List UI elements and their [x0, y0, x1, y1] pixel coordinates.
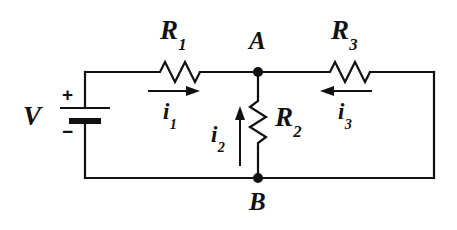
- circuit-diagram-figure: V + − R1 R3 R2 i1 i2 i3 A B: [0, 0, 457, 230]
- current-label-i1-letter: i: [163, 99, 169, 124]
- node-label-a: A: [249, 28, 266, 53]
- current-arrow-i2: [235, 106, 245, 166]
- resistor-label-r3-letter: R: [331, 15, 349, 45]
- resistor-r1-zigzag: [155, 62, 200, 82]
- current-label-i3-subscript: 3: [345, 116, 352, 132]
- current-arrow-i1: [148, 86, 200, 96]
- node-label-b: B: [249, 189, 266, 214]
- current-label-i3: i3: [338, 100, 352, 127]
- node-b-dot: [253, 173, 263, 183]
- resistor-label-r3-subscript: 3: [349, 35, 357, 54]
- resistor-r3-zigzag: [325, 62, 370, 82]
- resistor-label-r1-subscript: 1: [178, 35, 186, 54]
- current-label-i2-subscript: 2: [218, 139, 225, 155]
- current-label-i2-letter: i: [211, 122, 217, 147]
- current-arrow-i3: [320, 86, 372, 96]
- resistor-label-r3: R3: [331, 17, 357, 49]
- current-label-i1-subscript: 1: [170, 116, 177, 132]
- source-label-v: V: [23, 103, 41, 130]
- node-a-dot: [253, 67, 263, 77]
- resistor-r2-zigzag: [250, 96, 266, 149]
- resistor-label-r2: R2: [275, 104, 301, 136]
- circuit-schematic-drawing: [0, 0, 457, 230]
- resistor-label-r2-subscript: 2: [293, 122, 301, 141]
- battery-plus-sign: +: [62, 85, 73, 104]
- resistor-label-r2-letter: R: [275, 102, 293, 132]
- battery-symbol: [60, 108, 110, 121]
- battery-minus-sign: −: [62, 122, 73, 141]
- resistor-label-r1: R1: [160, 17, 186, 49]
- current-label-i1: i1: [163, 100, 177, 127]
- resistor-label-r1-letter: R: [160, 15, 178, 45]
- current-label-i3-letter: i: [338, 99, 344, 124]
- current-label-i2: i2: [211, 123, 225, 150]
